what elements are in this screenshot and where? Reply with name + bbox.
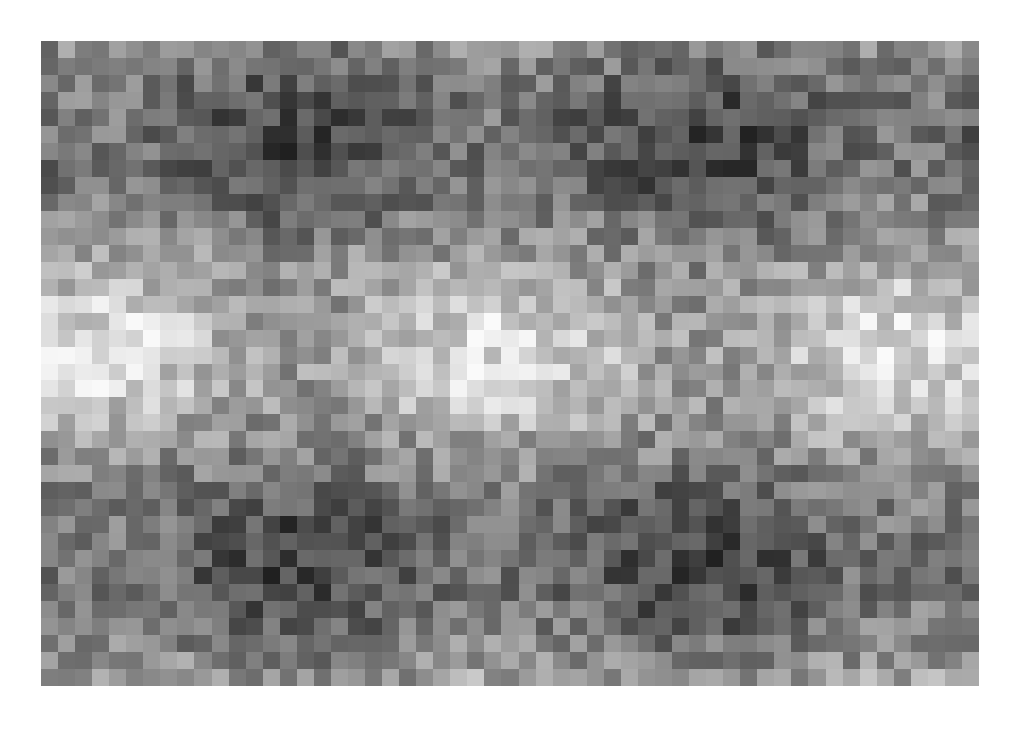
mosaic-cell [757,347,774,364]
mosaic-cell [109,262,126,279]
mosaic-cell [723,397,740,414]
mosaic-cell [433,58,450,75]
mosaic-cell [808,228,825,245]
mosaic-cell [706,465,723,482]
mosaic-cell [638,618,655,635]
mosaic-cell [194,601,211,618]
mosaic-cell [945,211,962,228]
mosaic-cell [774,211,791,228]
mosaic-cell [212,143,229,160]
mosaic-cell [928,448,945,465]
mosaic-cell [706,516,723,533]
mosaic-cell [826,228,843,245]
mosaic-cell [877,499,894,516]
mosaic-cell [109,550,126,567]
mosaic-cell [41,92,58,109]
mosaic-cell [92,330,109,347]
mosaic-cell [331,296,348,313]
mosaic-cell [928,126,945,143]
mosaic-cell [41,177,58,194]
mosaic-cell [655,313,672,330]
mosaic-cell [723,584,740,601]
mosaic-cell [450,601,467,618]
mosaic-cell [928,652,945,669]
mosaic-cell [519,228,536,245]
mosaic-cell [382,228,399,245]
mosaic-cell [263,296,280,313]
mosaic-cell [655,58,672,75]
mosaic-cell [826,448,843,465]
mosaic-cell [638,567,655,584]
mosaic-cell [791,143,808,160]
mosaic-cell [894,143,911,160]
mosaic-cell [808,109,825,126]
mosaic-cell [297,347,314,364]
mosaic-cell [587,635,604,652]
mosaic-cell [229,414,246,431]
mosaic-cell [604,584,621,601]
mosaic-cell [877,618,894,635]
mosaic-cell [860,380,877,397]
mosaic-cell [382,567,399,584]
mosaic-cell [450,652,467,669]
mosaic-cell [655,364,672,381]
mosaic-cell [280,228,297,245]
mosaic-cell [297,58,314,75]
mosaic-cell [314,177,331,194]
mosaic-cell [843,211,860,228]
mosaic-cell [263,516,280,533]
mosaic-cell [860,499,877,516]
mosaic-cell [536,499,553,516]
mosaic-cell [92,41,109,58]
mosaic-cell [484,296,501,313]
mosaic-cell [501,92,518,109]
mosaic-cell [706,160,723,177]
mosaic-cell [877,567,894,584]
mosaic-cell [791,669,808,686]
mosaic-cell [177,482,194,499]
mosaic-cell [280,296,297,313]
mosaic-cell [757,313,774,330]
mosaic-cell [467,160,484,177]
mosaic-cell [911,92,928,109]
mosaic-cell [212,262,229,279]
mosaic-cell [297,92,314,109]
mosaic-cell [740,635,757,652]
mosaic-cell [843,160,860,177]
mosaic-cell [416,584,433,601]
mosaic-cell [826,431,843,448]
mosaic-cell [280,414,297,431]
mosaic-cell [791,635,808,652]
mosaic-cell [194,448,211,465]
mosaic-cell [467,126,484,143]
mosaic-cell [706,296,723,313]
mosaic-cell [655,482,672,499]
mosaic-cell [246,109,263,126]
mosaic-cell [399,228,416,245]
mosaic-cell [75,448,92,465]
mosaic-cell [331,397,348,414]
mosaic-cell [263,465,280,482]
mosaic-cell [911,448,928,465]
mosaic-cell [808,92,825,109]
mosaic-cell [894,414,911,431]
mosaic-cell [160,364,177,381]
mosaic-cell [791,245,808,262]
mosaic-cell [945,601,962,618]
mosaic-cell [177,279,194,296]
mosaic-cell [41,618,58,635]
mosaic-cell [297,211,314,228]
mosaic-cell [928,431,945,448]
mosaic-cell [791,567,808,584]
mosaic-cell [41,279,58,296]
mosaic-cell [553,330,570,347]
mosaic-cell [399,279,416,296]
mosaic-cell [263,584,280,601]
mosaic-cell [58,109,75,126]
mosaic-cell [314,533,331,550]
mosaic-cell [433,296,450,313]
mosaic-cell [843,618,860,635]
mosaic-cell [126,635,143,652]
mosaic-cell [553,347,570,364]
mosaic-cell [433,160,450,177]
